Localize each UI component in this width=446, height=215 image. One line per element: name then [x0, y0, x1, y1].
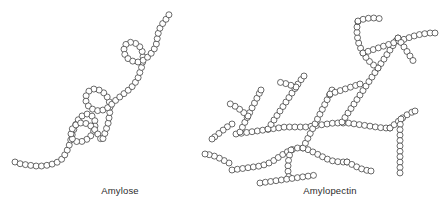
- glucose-monomer: [301, 73, 307, 79]
- glucose-monomer: [278, 79, 284, 85]
- glucose-chain: [344, 159, 374, 174]
- amylose-label: Amylose: [48, 185, 192, 196]
- glucose-monomer: [412, 108, 418, 114]
- glucose-chain: [397, 116, 404, 176]
- glucose-monomer: [376, 16, 382, 22]
- glucose-monomer: [310, 172, 316, 178]
- glucose-monomer: [357, 81, 363, 87]
- starch-structure-diagram: [0, 0, 446, 215]
- glucose-monomer: [368, 168, 374, 174]
- glucose-monomer: [202, 151, 208, 157]
- glucose-monomer: [227, 101, 233, 107]
- glucose-monomer: [166, 12, 172, 18]
- amylopectin-structure: [202, 15, 438, 186]
- amylose-structure: [12, 12, 172, 169]
- glucose-monomer: [432, 30, 438, 36]
- glucose-chain: [355, 15, 382, 24]
- glucose-chain: [227, 101, 251, 119]
- glucose-chain: [202, 151, 232, 166]
- glucose-monomer: [397, 170, 403, 176]
- glucose-chain: [209, 121, 235, 142]
- glucose-chain: [278, 79, 300, 90]
- amylopectin-label: Amylopectin: [250, 185, 410, 196]
- glucose-monomer: [410, 57, 416, 63]
- glucose-chain: [12, 12, 172, 169]
- glucose-monomer: [209, 136, 215, 142]
- glucose-monomer: [258, 87, 264, 93]
